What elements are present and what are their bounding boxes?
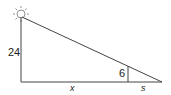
light-ray bbox=[22, 17, 162, 82]
height-label: 24 bbox=[8, 46, 20, 58]
small-height-label: 6 bbox=[119, 67, 125, 79]
base-x-label: x bbox=[69, 83, 75, 93]
base-s-label: s bbox=[141, 83, 146, 93]
triangle-diagram: 24 6 x s bbox=[0, 0, 171, 95]
